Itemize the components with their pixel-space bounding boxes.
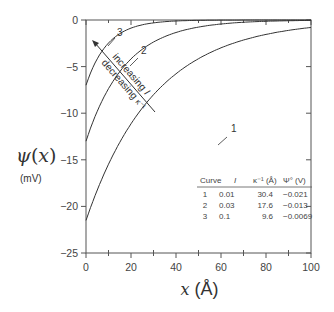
x-tick-label: 80 [260, 261, 272, 273]
curve-label-1: 1 [231, 123, 237, 134]
table-cell-curve: 3 [203, 212, 208, 221]
y-tick-label: −25 [60, 247, 78, 259]
parameter-table: CurveIκ⁻¹ (Å)Ψ° (V)10.0130.4−0.02120.031… [197, 176, 313, 221]
curve-label-leader [218, 137, 227, 145]
table-header-I: I [234, 176, 237, 185]
x-tick-label: 20 [125, 261, 137, 273]
x-tick-label: 0 [83, 261, 89, 273]
curve-label-2: 2 [141, 45, 147, 56]
table-header-curve: Curve [200, 176, 222, 185]
x-tick-label: 60 [215, 261, 227, 273]
table-cell-I: 0.1 [219, 212, 231, 221]
y-tick-label: −5 [66, 61, 78, 73]
axes: 0204060801000−5−10−15−20−25x (Å)ψ(x)(mV) [16, 14, 320, 299]
table-cell-psi0: −0.013 [283, 201, 308, 210]
y-tick-label: −10 [60, 107, 78, 119]
x-axis-label: x (Å) [181, 279, 219, 299]
table-cell-kappa: 17.6 [257, 201, 273, 210]
table-cell-I: 0.03 [219, 201, 235, 210]
x-tick-label: 40 [170, 261, 182, 273]
table-cell-psi0: −0.0069 [283, 212, 313, 221]
curve-label-3: 3 [117, 27, 123, 38]
x-tick-label: 100 [302, 261, 320, 273]
curves: 123 [86, 20, 311, 220]
table-cell-kappa: 9.6 [262, 212, 274, 221]
table-cell-psi0: −0.021 [283, 190, 308, 199]
y-axis-label: ψ(x) [16, 144, 56, 166]
y-axis-unit: (mV) [20, 173, 42, 184]
y-tick-label: −15 [60, 154, 78, 166]
table-header-psi0: Ψ° (V) [283, 176, 306, 185]
table-cell-curve: 1 [203, 190, 208, 199]
table-cell-I: 0.01 [219, 190, 235, 199]
table-cell-curve: 2 [203, 201, 208, 210]
potential-decay-chart: 0204060801000−5−10−15−20−25x (Å)ψ(x)(mV)… [0, 0, 334, 312]
table-header-kappa: κ⁻¹ (Å) [253, 176, 277, 185]
y-tick-label: 0 [72, 14, 78, 26]
y-tick-label: −20 [60, 200, 78, 212]
table-cell-kappa: 30.4 [257, 190, 273, 199]
